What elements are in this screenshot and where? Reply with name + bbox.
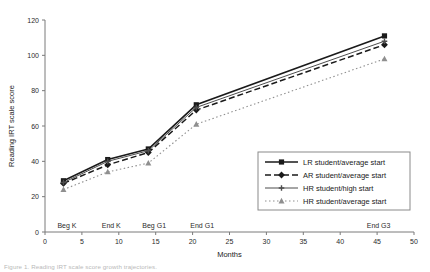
- x-event-label: End G1: [190, 222, 214, 229]
- y-tick-label: 60: [31, 123, 39, 130]
- reading-irt-line-chart: 02040608010012005101520253035404550Beg K…: [0, 0, 430, 272]
- x-event-label: End K: [102, 222, 121, 229]
- x-tick-label: 5: [80, 238, 84, 245]
- x-tick-label: 20: [189, 238, 197, 245]
- x-event-label: End G3: [367, 222, 391, 229]
- data-point-marker: [105, 169, 111, 175]
- data-point-marker: [382, 33, 387, 38]
- legend-label: HR student/average start: [303, 197, 387, 206]
- x-tick-label: 15: [152, 238, 160, 245]
- x-tick-label: 50: [410, 238, 418, 245]
- y-tick-label: 40: [31, 158, 39, 165]
- x-axis-title: Months: [217, 250, 242, 259]
- data-point-marker: [60, 186, 66, 192]
- figure-caption: Figure 1. Reading IRT scale score growth…: [4, 263, 157, 270]
- legend-label: LR student/average start: [303, 158, 386, 167]
- data-point-marker: [279, 159, 284, 164]
- x-event-label: Beg K: [57, 222, 76, 230]
- x-tick-label: 40: [336, 238, 344, 245]
- x-tick-label: 30: [263, 238, 271, 245]
- y-tick-label: 0: [35, 229, 39, 236]
- y-tick-label: 20: [31, 193, 39, 200]
- y-axis-title: Reading IRT scale score: [7, 85, 16, 167]
- legend-label: HR student/high start: [303, 184, 374, 193]
- x-tick-label: 45: [373, 238, 381, 245]
- x-event-label: Beg G1: [142, 222, 166, 230]
- x-tick-label: 25: [226, 238, 234, 245]
- y-tick-label: 120: [27, 17, 39, 24]
- y-tick-label: 80: [31, 87, 39, 94]
- y-tick-label: 100: [27, 52, 39, 59]
- x-tick-label: 0: [43, 238, 47, 245]
- x-tick-label: 35: [299, 238, 307, 245]
- chart-figure: 02040608010012005101520253035404550Beg K…: [0, 0, 430, 272]
- x-tick-label: 10: [115, 238, 123, 245]
- data-point-marker: [382, 38, 388, 44]
- legend-label: AR student/average start: [303, 171, 387, 180]
- data-point-marker: [381, 56, 387, 62]
